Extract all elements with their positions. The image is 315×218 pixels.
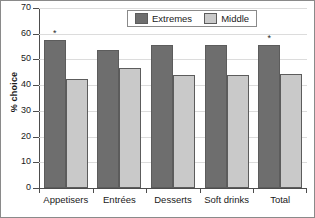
y-axis-tick-label: 70 — [5, 3, 31, 12]
bar-group: * — [253, 8, 307, 188]
x-axis-line — [39, 188, 307, 189]
legend-swatch-middle — [204, 13, 217, 24]
bar-group — [93, 8, 147, 188]
significance-marker: * — [267, 35, 271, 41]
y-axis-tick-label: 20 — [5, 132, 31, 141]
y-axis-tick-label: 30 — [5, 106, 31, 115]
legend-swatch-extremes — [135, 13, 148, 24]
x-axis-tick — [146, 188, 147, 193]
significance-marker: * — [53, 30, 57, 36]
x-axis-category-label: Appetisers — [39, 194, 93, 210]
legend-entry-middle: Middle — [204, 13, 249, 24]
legend-label-middle: Middle — [221, 13, 249, 24]
x-axis-category-label: Total — [253, 194, 307, 210]
bar-extremes — [258, 45, 280, 188]
y-axis-tick-label: 50 — [5, 54, 31, 63]
bar-group — [200, 8, 254, 188]
bar-middle — [173, 75, 195, 188]
x-axis-tick — [200, 188, 201, 193]
bar-pair: * — [39, 8, 93, 188]
bar-extremes — [151, 45, 173, 188]
bar-middle — [227, 75, 249, 188]
bar-middle — [119, 68, 141, 188]
bar-chart: % choice 010203040506070 ** AppetisersEn… — [0, 0, 315, 218]
bar-middle — [66, 79, 88, 188]
bar-pair — [93, 8, 147, 188]
legend-entry-extremes: Extremes — [135, 13, 192, 24]
bar-extremes — [44, 40, 66, 188]
y-axis-tick-label: 10 — [5, 157, 31, 166]
y-axis-tick-label: 40 — [5, 80, 31, 89]
y-axis-tick-label: 0 — [5, 183, 31, 192]
y-axis-title: % choice — [9, 57, 19, 127]
chart-legend: Extremes Middle — [127, 10, 257, 27]
bar-group — [146, 8, 200, 188]
bar-pair: * — [253, 8, 307, 188]
bar-groups: ** — [39, 8, 307, 188]
x-axis-tick — [93, 188, 94, 193]
x-axis-tick — [306, 188, 307, 193]
bar-group: * — [39, 8, 93, 188]
legend-label-extremes: Extremes — [152, 13, 192, 24]
plot-area: 010203040506070 ** — [39, 8, 307, 188]
x-axis-tick — [39, 188, 40, 193]
bar-pair — [146, 8, 200, 188]
bar-pair — [200, 8, 254, 188]
bar-extremes — [97, 50, 119, 188]
x-axis-category-label: Desserts — [146, 194, 200, 210]
x-axis-labels: AppetisersEntréesDessertsSoft drinksTota… — [39, 194, 307, 210]
bar-middle — [280, 74, 302, 188]
bar-extremes — [205, 45, 227, 188]
x-axis-category-label: Soft drinks — [200, 194, 254, 210]
x-axis-tick — [253, 188, 254, 193]
y-axis-tick-label: 60 — [5, 29, 31, 38]
x-axis-category-label: Entrées — [93, 194, 147, 210]
